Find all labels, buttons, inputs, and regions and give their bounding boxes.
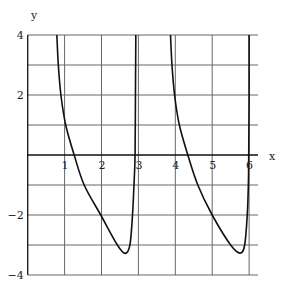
x-tick-label: 6 [246,159,253,172]
y-tick-label: −4 [7,269,23,282]
x-tick-label: 1 [62,159,69,172]
curve-branch-1 [57,35,136,253]
y-tick-label: 4 [17,29,24,42]
axes [28,35,258,275]
x-tick-label: 5 [209,159,216,172]
x-tick-label: 2 [99,159,106,172]
y-axis-label: y [30,9,38,22]
curve-branch-2 [171,35,250,253]
x-tick-label: 4 [172,159,179,172]
axis-labels: y x 12345642−2−4 [7,9,276,282]
chart: y x 12345642−2−4 [0,0,287,293]
x-tick-label: 3 [135,159,142,172]
plot-curves [57,35,249,253]
y-tick-label: 2 [17,89,24,102]
x-axis-label: x [269,150,276,163]
y-tick-label: −2 [7,209,23,222]
